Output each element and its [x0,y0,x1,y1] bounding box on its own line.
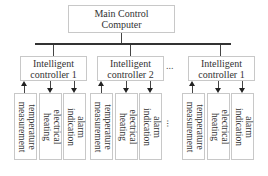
communication-bus [35,43,231,45]
connector-temp-n [192,85,193,93]
controller-label-line1: Intelligent [107,58,153,69]
module-label-line2: measurement [16,101,26,152]
controller-label-line2: controller 2 [107,69,153,80]
module-label-line1: electrical [219,109,229,144]
module-label-line1: temperature [102,101,112,152]
bus-drop-controller-1 [53,45,54,56]
connector-heat-2 [126,81,127,88]
connector-alarm-n [242,81,243,88]
module-label-line2: indication [141,108,151,146]
temperature-measurement-box: temperaturemeasurement [14,93,37,160]
controller-ellipsis: ... [166,60,174,71]
alarm-indication-box: alarmindication [63,93,86,160]
connector-heat-1 [50,81,51,88]
bus-drop-controller-n [220,45,221,56]
main-control-label-line2: Computer [94,19,148,30]
module-label-line2: heating [117,109,127,144]
module-label-line2: measurement [92,101,102,152]
arrow-up-icon [21,81,27,86]
module-label-line2: indication [233,108,243,146]
intelligent-controller-1: Intelligent controller 1 [20,56,87,81]
controller-label-line2: controller 1 [30,69,76,80]
main-control-label-line1: Main Control [94,8,148,19]
electrical-heating-box: electricalheating [207,93,230,160]
module-label-line2: measurement [184,101,194,152]
temperature-measurement-box: temperaturemeasurement [90,93,113,160]
module-label-line1: alarm [243,108,253,146]
module-label-line2: indication [65,108,75,146]
alarm-indication-box: alarmindication [139,93,162,160]
module-label-line1: alarm [151,108,161,146]
module-label-line1: electrical [51,109,61,144]
electrical-heating-box: electricalheating [39,93,62,160]
module-label-line2: heating [209,109,219,144]
module-label-line1: electrical [127,109,137,144]
intelligent-controller-n: Intelligent controller 1 [188,56,255,81]
bus-drop-controller-2 [130,45,131,56]
temperature-measurement-box: temperaturemeasurement [182,93,205,160]
intelligent-controller-2: Intelligent controller 2 [97,56,164,81]
controller-label-line1: Intelligent [198,58,244,69]
module-ellipsis: ... [165,120,176,128]
connector-heat-n [218,81,219,88]
electrical-heating-box: electricalheating [115,93,138,160]
connector-temp-1 [24,85,25,93]
module-label-line1: temperature [26,101,36,152]
arrow-up-icon [98,81,104,86]
arrow-up-icon [189,81,195,86]
main-control-computer-box: Main Control Computer [68,5,175,33]
controller-label-line2: controller 1 [198,69,244,80]
connector-alarm-1 [74,81,75,88]
connector-alarm-2 [150,81,151,88]
module-label-line2: heating [41,109,51,144]
module-label-line1: temperature [194,101,204,152]
connector-temp-2 [101,85,102,93]
controller-label-line1: Intelligent [30,58,76,69]
module-label-line1: alarm [75,108,85,146]
alarm-indication-box: alarmindication [231,93,254,160]
